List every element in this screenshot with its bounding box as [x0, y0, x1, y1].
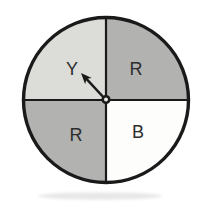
sector-label-B: B	[132, 122, 144, 142]
spinner-wheel-svg: YRRB	[0, 0, 202, 208]
sector-label-R: R	[130, 59, 143, 79]
sector-label-R: R	[70, 125, 83, 145]
sector-label-Y: Y	[66, 59, 78, 79]
scan-smudge	[38, 193, 162, 200]
spinner-pivot	[103, 96, 110, 103]
spinner-figure: YRRB	[0, 0, 202, 208]
